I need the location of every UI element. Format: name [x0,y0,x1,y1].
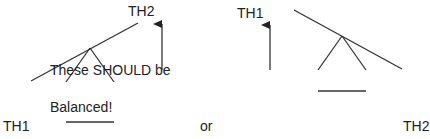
right-th1-label: TH1 [237,5,263,21]
right-th2-label: TH2 [403,118,429,134]
or-connector-label: or [200,118,212,134]
caption-line-2: Balanced! [50,99,112,115]
left-th1-label: TH1 [3,118,29,134]
caption-line-1: These SHOULD be [50,62,171,78]
left-th2-label: TH2 [128,3,154,19]
right-lever-beam [294,10,402,69]
right-fulcrum-leg [342,36,366,70]
right-fulcrum-leg [318,36,342,70]
right-seesaw [294,10,402,91]
